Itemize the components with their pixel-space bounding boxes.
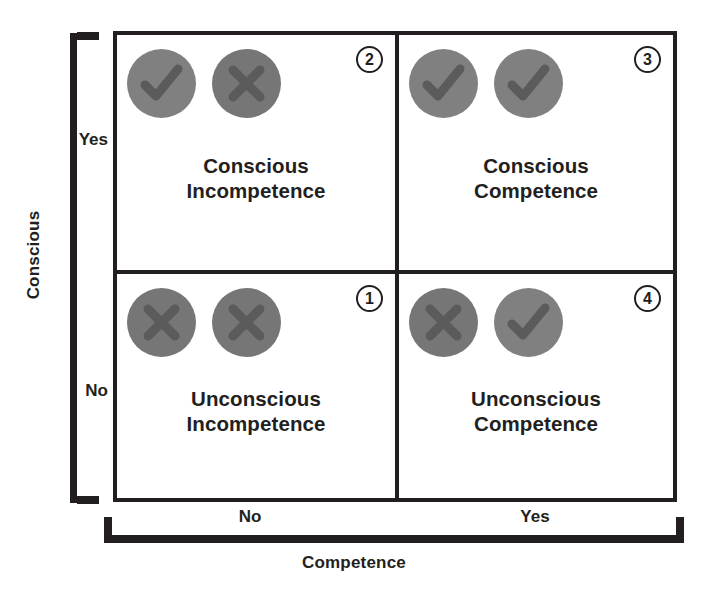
x-mark-icon — [212, 288, 281, 357]
quadrant-label-top-right-line1: Conscious — [399, 153, 673, 178]
x-mark-icon — [409, 288, 478, 357]
quadrant-label-bottom-right-line1: Unconscious — [399, 386, 673, 411]
quadrant-label-top-left: Conscious Incompetence — [117, 153, 395, 203]
quadrant-label-top-left-line1: Conscious — [117, 153, 395, 178]
check-mark-icon — [409, 49, 478, 118]
quadrant-label-bottom-left-line1: Unconscious — [117, 386, 395, 411]
quadrant-badge-3: 3 — [634, 46, 661, 73]
quadrant-unconscious-competence[interactable]: 4 Unconscious Competence — [399, 274, 673, 498]
quadrant-label-top-left-line2: Incompetence — [117, 178, 395, 203]
competence-matrix-diagram: Conscious Yes No 2 — [0, 0, 708, 601]
quadrant-grid: 2 Conscious Incompetence — [113, 31, 677, 502]
quadrant-label-top-right-line2: Competence — [399, 178, 673, 203]
x-axis-bracket-left-cap — [104, 517, 112, 543]
x-axis-bracket-right-cap — [676, 517, 684, 543]
check-mark-icon — [494, 288, 563, 357]
quadrant-badge-4: 4 — [634, 285, 661, 312]
y-axis-bracket — [70, 33, 99, 503]
x-mark-icon — [127, 288, 196, 357]
y-axis-title: Conscious — [24, 155, 44, 355]
quadrant-label-bottom-left-line2: Incompetence — [117, 411, 395, 436]
check-mark-icon — [127, 49, 196, 118]
quadrant-icons-bottom-right — [409, 288, 563, 357]
y-axis-tick-yes: Yes — [60, 130, 108, 150]
quadrant-label-top-right: Conscious Competence — [399, 153, 673, 203]
quadrant-label-bottom-left: Unconscious Incompetence — [117, 386, 395, 436]
quadrant-conscious-incompetence[interactable]: 2 Conscious Incompetence — [117, 35, 395, 270]
x-axis-bracket — [104, 517, 684, 543]
quadrant-label-bottom-right-line2: Competence — [399, 411, 673, 436]
y-axis-tick-no: No — [60, 381, 108, 401]
quadrant-icons-top-right — [409, 49, 563, 118]
quadrant-icons-bottom-left — [127, 288, 281, 357]
quadrant-label-bottom-right: Unconscious Competence — [399, 386, 673, 436]
y-axis-bracket-top-cap — [77, 32, 99, 40]
check-mark-icon — [494, 49, 563, 118]
quadrant-badge-2: 2 — [356, 46, 383, 73]
quadrant-conscious-competence[interactable]: 3 Conscious Competence — [399, 35, 673, 270]
quadrant-unconscious-incompetence[interactable]: 1 Unconscious Incompetence — [117, 274, 395, 498]
quadrant-badge-1: 1 — [356, 285, 383, 312]
x-axis-title: Competence — [0, 553, 708, 573]
x-mark-icon — [212, 49, 281, 118]
quadrant-icons-top-left — [127, 49, 281, 118]
y-axis-bracket-bottom-cap — [77, 496, 99, 504]
